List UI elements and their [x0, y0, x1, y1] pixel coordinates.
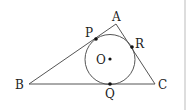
- point-r-dot: [130, 45, 134, 49]
- point-p-dot: [94, 37, 98, 41]
- point-q-dot: [108, 82, 112, 86]
- figure-canvas: A B C O P R Q: [0, 0, 187, 110]
- label-c: C: [158, 78, 167, 92]
- label-p: P: [85, 26, 93, 40]
- label-q: Q: [105, 87, 115, 101]
- label-a: A: [111, 10, 121, 24]
- label-o: O: [96, 53, 106, 67]
- label-r: R: [135, 37, 145, 51]
- point-o-dot: [108, 57, 111, 60]
- geometry-figure: A B C O P R Q: [0, 0, 187, 110]
- label-b: B: [15, 78, 24, 92]
